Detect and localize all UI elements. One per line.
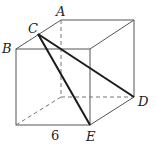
cube-diagram: A B C D E 6	[0, 0, 157, 144]
segment-C-E	[38, 34, 90, 125]
segment-C-D	[38, 34, 134, 97]
label-E: E	[85, 129, 96, 144]
label-D: D	[137, 94, 149, 109]
edge-length-label: 6	[51, 128, 59, 143]
hidden-edge-bottom-left	[16, 97, 61, 125]
triangle-CDE	[38, 34, 134, 125]
edge-top-right	[90, 20, 134, 49]
label-C: C	[28, 21, 38, 36]
edge-E-D	[90, 97, 134, 125]
label-B: B	[1, 41, 12, 56]
label-A: A	[55, 4, 65, 19]
